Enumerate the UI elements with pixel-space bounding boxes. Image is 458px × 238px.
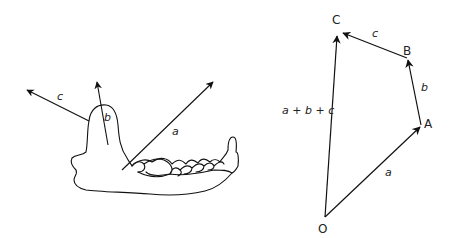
label-a-right: a	[385, 166, 392, 179]
gum-line	[138, 170, 232, 177]
point-O-label: O	[318, 222, 327, 236]
vector-a-left	[122, 82, 213, 170]
vector-a-right	[325, 127, 420, 217]
label-c-right: c	[372, 27, 378, 40]
label-b-right: b	[421, 81, 428, 94]
point-B-label: B	[403, 44, 411, 58]
vector-diagram: c b a C B A O c b a a + b + c	[0, 0, 458, 238]
point-A-label: A	[424, 117, 433, 131]
vector-b-right	[408, 60, 421, 125]
label-a-left: a	[172, 125, 179, 138]
label-c-left: c	[57, 90, 63, 103]
jaw-force-vectors	[27, 82, 213, 170]
jaw-drawing	[71, 105, 238, 195]
vector-polygon	[325, 33, 421, 217]
vector-sum	[325, 36, 337, 217]
point-C-label: C	[332, 13, 340, 27]
jaw-outline	[71, 105, 238, 195]
label-sum: a + b + c	[282, 104, 334, 117]
label-b-left: b	[104, 111, 111, 124]
